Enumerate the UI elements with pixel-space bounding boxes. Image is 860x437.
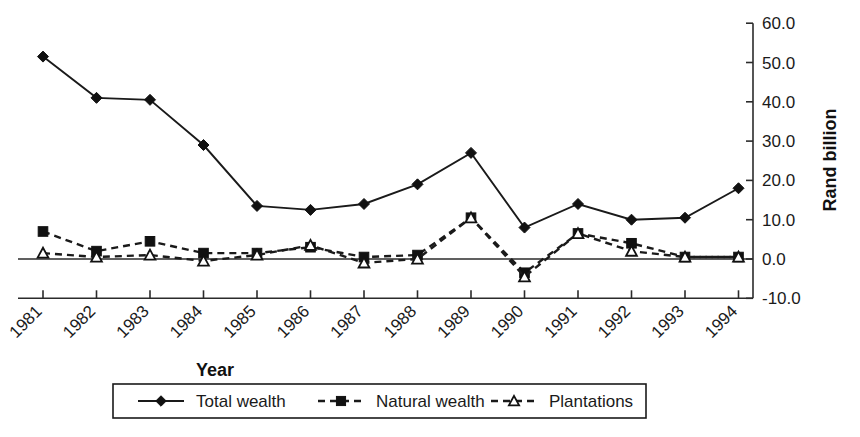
- y-tick-label: -10.0: [762, 289, 801, 308]
- y-axis-title: Rand billion: [820, 109, 840, 212]
- data-point-marker-diamond: [626, 214, 637, 225]
- x-tick-labels: 1981198219831984198519861987198819891990…: [6, 302, 742, 342]
- legend-label: Natural wealth: [376, 392, 485, 411]
- x-tick-label: 1981: [6, 302, 46, 342]
- series-layer: [38, 51, 745, 281]
- data-point-marker-square: [38, 227, 48, 237]
- x-tick-label: 1982: [59, 302, 99, 342]
- data-point-marker-diamond: [573, 198, 584, 209]
- chart-container: 1981198219831984198519861987198819891990…: [0, 0, 860, 437]
- x-tick-label: 1990: [487, 302, 527, 342]
- legend-label: Plantations: [549, 392, 633, 411]
- data-point-marker-diamond: [359, 198, 370, 209]
- y-tick-label: 40.0: [762, 93, 795, 112]
- x-tick-label: 1993: [648, 302, 688, 342]
- y-tick-label: 0.0: [762, 250, 786, 269]
- x-tick-label: 1984: [166, 302, 206, 342]
- x-tick-label: 1988: [380, 302, 420, 342]
- x-tick-label: 1985: [220, 302, 260, 342]
- data-point-marker-diamond: [305, 204, 316, 215]
- data-point-marker-square: [336, 396, 345, 405]
- line-chart: 1981198219831984198519861987198819891990…: [0, 0, 860, 437]
- y-tick-labels: 60.050.040.030.020.010.00.0-10.0: [762, 14, 801, 308]
- series-1: [38, 51, 745, 233]
- x-tick-label: 1986: [273, 302, 313, 342]
- chart-legend: Total wealthNatural wealthPlantations: [113, 384, 646, 418]
- x-tick-label: 1987: [327, 302, 367, 342]
- x-tick-label: 1983: [113, 302, 153, 342]
- data-point-marker-diamond: [733, 183, 744, 194]
- y-tick-label: 20.0: [762, 171, 795, 190]
- series-3: [38, 212, 744, 281]
- y-tick-label: 50.0: [762, 54, 795, 73]
- series-line: [43, 57, 739, 228]
- axis-titles: YearRand billion: [196, 109, 840, 381]
- x-tick-label: 1992: [594, 302, 634, 342]
- x-axis-title: Year: [196, 360, 234, 380]
- y-tick-label: 30.0: [762, 132, 795, 151]
- data-point-marker-diamond: [412, 179, 423, 190]
- y-tick-label: 10.0: [762, 211, 795, 230]
- x-tick-label: 1994: [701, 302, 741, 342]
- x-tick-label: 1991: [541, 302, 581, 342]
- data-point-marker-diamond: [680, 212, 691, 223]
- x-tick-label: 1989: [434, 302, 474, 342]
- series-2: [38, 213, 743, 278]
- data-point-marker-square: [145, 237, 155, 247]
- legend-label: Total wealth: [196, 392, 286, 411]
- y-tick-label: 60.0: [762, 14, 795, 33]
